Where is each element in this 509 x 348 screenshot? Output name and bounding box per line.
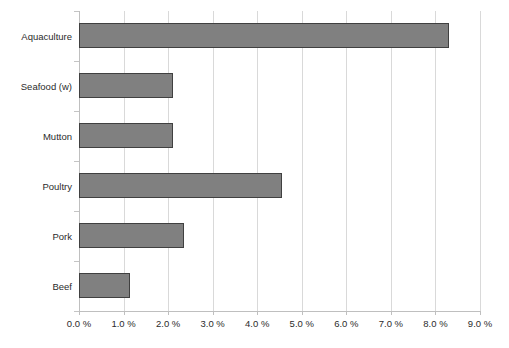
x-axis-tick-mark [435,311,436,315]
bar-beef[interactable] [79,273,130,298]
bar-poultry[interactable] [79,173,282,198]
x-axis-tick-mark [257,311,258,315]
gridline [480,11,481,311]
bar-pork[interactable] [79,223,184,248]
x-axis-tick-mark [213,311,214,315]
x-axis-tick-mark [346,311,347,315]
y-axis-category-label: Seafood (w) [0,81,72,92]
y-axis-tick-mark [74,161,79,162]
x-axis-tick-mark [79,311,80,315]
plot-area [79,11,480,311]
y-axis-tick-mark [74,11,79,12]
x-axis-line [79,311,481,312]
bars-layer [79,11,480,311]
bar-aquaculture[interactable] [79,23,449,48]
x-axis-tick-mark [302,311,303,315]
bar-mutton[interactable] [79,123,173,148]
x-axis-tick-mark [168,311,169,315]
x-axis-tick-label: 9.0 % [452,318,508,329]
y-axis-tick-mark [74,61,79,62]
y-axis-category-label: Mutton [0,131,72,142]
y-axis-category-label: Pork [0,231,72,242]
y-axis-category-label: Beef [0,281,72,292]
x-axis-tick-mark [480,311,481,315]
y-axis-category-label: Aquaculture [0,31,72,42]
y-axis-tick-mark [74,261,79,262]
bar-seafood-w[interactable] [79,73,173,98]
x-axis-tick-mark [124,311,125,315]
x-axis-tick-mark [391,311,392,315]
y-axis-category-label: Poultry [0,181,72,192]
y-axis-tick-mark [74,211,79,212]
y-axis-tick-mark [74,111,79,112]
bar-chart: AquacultureSeafood (w)MuttonPoultryPorkB… [0,0,509,348]
